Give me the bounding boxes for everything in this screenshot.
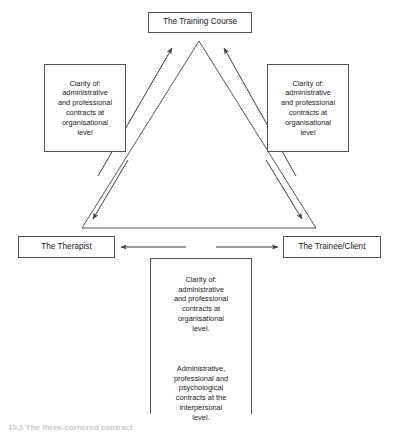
figure-caption: 10.1 The three-cornered contract (8, 423, 308, 432)
node-training-course: The Training Course (148, 12, 252, 33)
node-left-organisational-contract: Clarity of: administrative and professio… (44, 64, 126, 152)
arrow-left-box-to-therapist (93, 160, 128, 219)
node-training-course-label: The Training Course (149, 17, 251, 28)
arrow-right-box-to-trainee (266, 160, 302, 219)
node-trainee-client: The Trainee/Client (283, 236, 381, 258)
paragraph-spacer (155, 343, 247, 354)
node-interpersonal-contract-paragraph-2: Administrative, professional and psychol… (155, 364, 247, 423)
node-trainee-client-label: The Trainee/Client (284, 242, 380, 253)
node-right-organisational-contract-label: Clarity of: administrative and professio… (271, 79, 345, 138)
node-left-organisational-contract-label: Clarity of: administrative and professio… (48, 79, 122, 138)
node-right-organisational-contract: Clarity of: administrative and professio… (267, 64, 349, 152)
node-interpersonal-contract-paragraph-1: Clarity of: administrative and professio… (155, 275, 247, 334)
node-interpersonal-contract-text: Clarity of: administrative and professio… (155, 265, 247, 432)
three-cornered-contract-diagram: The Training Course Clarity of: administ… (0, 0, 393, 432)
node-therapist-label: The Therapist (19, 242, 114, 253)
node-interpersonal-contract: Clarity of: administrative and professio… (150, 258, 252, 414)
node-therapist: The Therapist (18, 236, 115, 258)
